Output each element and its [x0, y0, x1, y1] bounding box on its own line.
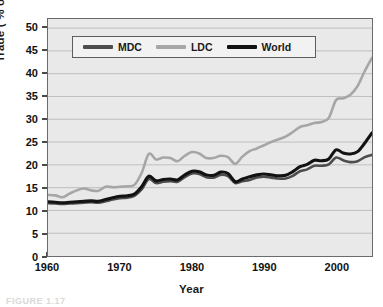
legend-item-mdc: MDC [83, 41, 142, 53]
y-tick-label: 15 [12, 183, 38, 194]
legend-item-world: World [227, 41, 292, 53]
y-tick-label: 35 [12, 91, 38, 102]
y-tick-label: 30 [12, 114, 38, 125]
legend-label: MDC [118, 41, 142, 53]
chart-legend: MDCLDCWorld [72, 36, 316, 58]
legend-label: World [262, 41, 292, 53]
legend-item-ldc: LDC [156, 41, 213, 53]
y-tick-label: 5 [12, 229, 38, 240]
legend-swatch-world [227, 45, 257, 49]
y-tick-label: 25 [12, 137, 38, 148]
x-axis-title: Year [0, 283, 383, 295]
legend-swatch-mdc [83, 45, 113, 49]
y-tick-label: 45 [12, 45, 38, 56]
figure-caption: FIGURE 1.17 [6, 296, 66, 306]
y-tick-label: 20 [12, 160, 38, 171]
y-tick-label: 10 [12, 206, 38, 217]
y-tick-label: 50 [12, 22, 38, 33]
x-tick-label: 1980 [171, 262, 213, 273]
x-tick-label: 1970 [98, 262, 140, 273]
legend-swatch-ldc [156, 45, 186, 49]
chart-figure: Trade ( % of GDP) 05101520253035404550 1… [0, 0, 383, 307]
x-tick-label: 1990 [243, 262, 285, 273]
y-axis-title: Trade ( % of GDP) [0, 0, 6, 92]
y-tick-label: 40 [12, 68, 38, 79]
x-tick-label: 1960 [26, 262, 68, 273]
legend-label: LDC [191, 41, 213, 53]
x-tick-label: 2000 [316, 262, 358, 273]
